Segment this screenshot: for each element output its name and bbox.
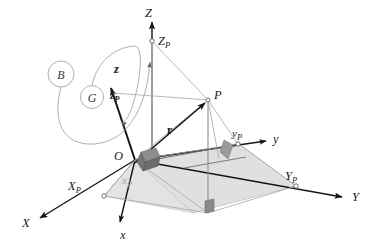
axis-z-label: z	[113, 62, 119, 76]
projection-xp-sub: P	[126, 179, 132, 189]
projection-ZP-label: ZP	[158, 34, 170, 50]
marker-XP	[102, 194, 106, 198]
coordinate-frames-diagram: r B G	[0, 0, 372, 249]
projection-ZP-sub: P	[164, 40, 170, 50]
figure-root: r B G	[0, 0, 372, 249]
axis-x-label: x	[119, 228, 126, 242]
right-angle-marker-ground	[205, 199, 214, 213]
axis-y-label: y	[271, 132, 279, 146]
set-marker-B-label: B	[57, 68, 65, 82]
projection-yp-sub: P	[236, 132, 242, 142]
marker-ZP	[150, 39, 154, 43]
set-markers-group: B G	[48, 46, 150, 144]
axis-X-label: X	[21, 216, 31, 230]
vector-r-label: r	[167, 124, 172, 136]
projection-yp-label: yP	[231, 127, 242, 142]
set-marker-G-label: G	[88, 91, 97, 105]
axis-Y-label: Y	[352, 190, 361, 204]
projection-zp-label: zP	[109, 89, 120, 104]
projection-YP-sub: P	[291, 175, 297, 185]
projection-XP-sub: P	[75, 185, 81, 195]
origin-label: O	[114, 149, 123, 163]
marker-P	[206, 98, 210, 102]
projection-zp-sub: P	[114, 94, 120, 104]
line-z-to-P	[113, 93, 208, 100]
line-ZP-to-P	[152, 41, 208, 100]
projection-XP-label: XP	[67, 179, 81, 195]
point-P-label: P	[213, 88, 222, 102]
axis-Z-label: Z	[145, 6, 153, 20]
projection-YP-label: YP	[285, 169, 297, 185]
marker-yp	[236, 142, 240, 146]
curve-G-to-z	[92, 46, 140, 122]
